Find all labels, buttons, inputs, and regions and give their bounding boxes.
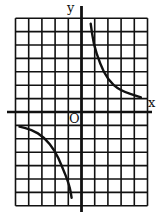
graph-canvas: y x O	[0, 0, 161, 215]
x-axis-label: x	[148, 95, 156, 110]
y-axis-label: y	[66, 0, 75, 15]
origin-label: O	[69, 111, 80, 126]
curve-branch-quadrant-iii	[20, 127, 72, 198]
curve-branch-quadrant-i	[91, 24, 141, 98]
hyperbola-graph: y x O	[0, 0, 161, 215]
